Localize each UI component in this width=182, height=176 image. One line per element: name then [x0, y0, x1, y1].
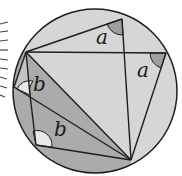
- label-a-top: a: [96, 25, 108, 49]
- label-b-upper: b: [33, 72, 46, 96]
- geometry-diagram: a a b b: [0, 0, 182, 176]
- hatch-marks: [0, 22, 8, 97]
- label-a-right: a: [137, 58, 149, 82]
- label-b-lower: b: [54, 117, 67, 141]
